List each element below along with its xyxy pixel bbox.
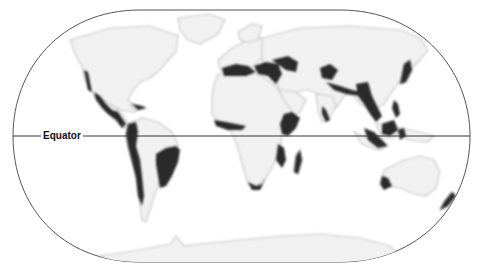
map-page: Equator (0, 0, 480, 279)
equator-label: Equator (41, 129, 83, 142)
